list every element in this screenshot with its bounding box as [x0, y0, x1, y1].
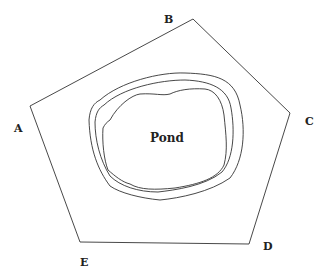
pond-label: Pond: [150, 131, 184, 145]
vertex-label-e: E: [80, 256, 88, 269]
vertex-label-b: B: [164, 13, 173, 26]
vertex-label-d: D: [263, 240, 273, 253]
diagram-canvas: A B C D E Pond: [0, 0, 322, 280]
vertex-label-a: A: [14, 122, 23, 135]
vertex-label-c: C: [305, 115, 314, 128]
